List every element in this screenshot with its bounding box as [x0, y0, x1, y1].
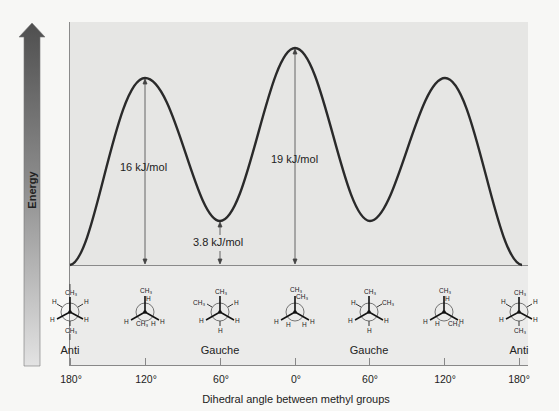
- svg-text:H: H: [351, 299, 356, 306]
- svg-text:H: H: [199, 317, 204, 324]
- svg-text:H: H: [302, 321, 307, 328]
- newman-anti-left: CH₃ H H H H CH₃: [50, 284, 89, 340]
- tick-label: 0°: [291, 373, 301, 385]
- barrier-0-label: 19 kJ/mol: [271, 153, 318, 165]
- svg-text:H: H: [533, 298, 538, 305]
- x-axis-title: Dihedral angle between methyl groups: [202, 393, 390, 405]
- tick-label: 180°: [508, 373, 530, 385]
- barrier-120-label: 16 kJ/mol: [120, 161, 167, 173]
- svg-text:H: H: [348, 317, 353, 324]
- svg-text:H: H: [423, 318, 428, 325]
- svg-text:H: H: [274, 318, 279, 325]
- svg-text:H: H: [218, 327, 223, 334]
- svg-text:H: H: [84, 298, 89, 305]
- svg-text:H: H: [445, 295, 450, 302]
- svg-text:H: H: [160, 318, 165, 325]
- svg-text:CH₃: CH₃: [215, 288, 227, 295]
- svg-text:H: H: [367, 327, 372, 334]
- svg-text:CH₃: CH₃: [290, 286, 302, 293]
- svg-text:CH₃: CH₃: [364, 288, 376, 295]
- newman-eclipsed-120-left: CH₃ H H CH₃ H H: [124, 287, 165, 327]
- conf-label-anti-left: Anti: [61, 344, 80, 356]
- svg-text:H: H: [286, 321, 291, 328]
- svg-text:H: H: [384, 317, 389, 324]
- newman-anti-right: CH₃ H H H H CH₃: [499, 289, 538, 334]
- svg-text:H: H: [501, 298, 506, 305]
- x-axis: [70, 358, 528, 366]
- energy-axis-label: Energy: [24, 160, 40, 220]
- svg-text:CH₃: CH₃: [65, 289, 77, 296]
- energy-diagram-svg: CH₃ H H H H CH₃ CH₃ H H CH₃ H H CH₃ CH₃ …: [0, 0, 559, 411]
- newman-eclipsed-0: CH₃ CH₃ H H H H: [274, 286, 315, 328]
- svg-text:H: H: [151, 320, 156, 327]
- svg-text:H: H: [310, 318, 315, 325]
- tick-label: 60°: [213, 373, 229, 385]
- conf-label-gauche-right: Gauche: [350, 344, 389, 356]
- svg-text:H: H: [146, 295, 151, 302]
- newman-eclipsed-120-right: CH₃ H H H CH₃ H: [423, 287, 464, 327]
- svg-text:CH₃: CH₃: [514, 289, 526, 296]
- svg-text:H: H: [235, 317, 240, 324]
- svg-text:H: H: [52, 298, 57, 305]
- svg-text:H: H: [50, 316, 55, 323]
- tick-label: 180°: [60, 373, 82, 385]
- svg-text:CH₃: CH₃: [296, 293, 308, 300]
- svg-text:CH₃: CH₃: [140, 287, 152, 294]
- svg-text:H: H: [84, 316, 89, 323]
- conf-label-gauche-left: Gauche: [201, 344, 240, 356]
- tick-label: 60°: [362, 373, 378, 385]
- svg-text:CH₃: CH₃: [514, 327, 526, 334]
- svg-text:H: H: [533, 316, 538, 323]
- svg-text:CH₃: CH₃: [439, 287, 451, 294]
- svg-text:H: H: [435, 320, 440, 327]
- newman-gauche-right: CH₃ H CH₃ H H H: [348, 288, 394, 334]
- gauche-energy-label: 3.8 kJ/mol: [193, 236, 243, 248]
- svg-text:H: H: [499, 316, 504, 323]
- newman-gauche-left: CH₃ CH₃ H H H H: [193, 288, 240, 334]
- svg-text:CH₃: CH₃: [136, 320, 148, 327]
- svg-text:CH₃: CH₃: [65, 327, 77, 334]
- svg-text:H: H: [124, 318, 129, 325]
- svg-text:H: H: [459, 318, 464, 325]
- svg-text:CH₃: CH₃: [193, 299, 205, 306]
- conf-label-anti-right: Anti: [510, 344, 529, 356]
- tick-label: 120°: [434, 373, 456, 385]
- tick-label: 120°: [135, 373, 157, 385]
- energy-label-text: Energy: [26, 171, 38, 208]
- svg-text:H: H: [234, 299, 239, 306]
- svg-text:CH₃: CH₃: [382, 299, 394, 306]
